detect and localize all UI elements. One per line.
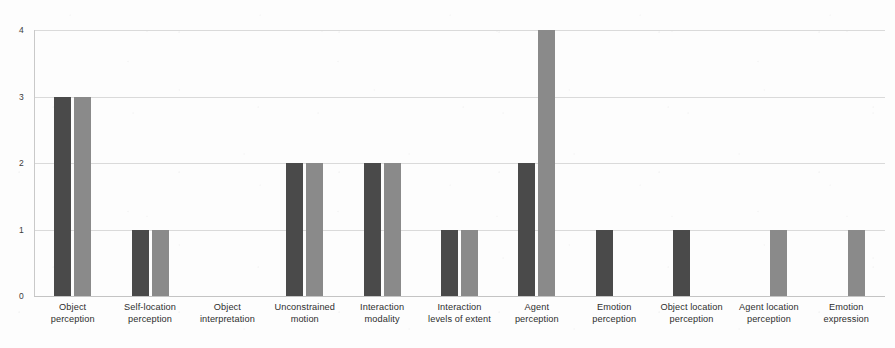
bar-pair (441, 30, 478, 296)
bar-group (653, 30, 730, 296)
bar-group (498, 30, 575, 296)
x-axis-label-line: Interaction (422, 302, 497, 314)
bar-series-1 (132, 230, 149, 297)
x-axis-label-line: expression (809, 314, 884, 326)
plot-area (34, 30, 885, 296)
x-axis-label-line: interpretation (190, 314, 265, 326)
y-axis: 01234 (0, 0, 34, 348)
x-axis-label-line: Emotion (809, 302, 884, 314)
bar-pair (518, 30, 555, 296)
bar-pair (750, 30, 787, 296)
x-axis-label-line: perception (577, 314, 652, 326)
y-axis-tick-label: 1 (19, 225, 24, 235)
bar-series-1 (596, 230, 613, 297)
bar-pair (596, 30, 633, 296)
bar-series-1 (286, 163, 303, 296)
x-axis-label-line: Self-location (112, 302, 187, 314)
x-axis-category-label: Agentperception (498, 302, 575, 325)
bar-pair (132, 30, 169, 296)
y-axis-tick-label: 4 (19, 25, 24, 35)
x-axis-label-line: Agent location (731, 302, 806, 314)
x-axis-category-label: Emotionperception (576, 302, 653, 325)
bar-pair (828, 30, 865, 296)
x-axis-label-line: Agent (499, 302, 574, 314)
bar-group (189, 30, 266, 296)
bar-series-2 (461, 230, 478, 297)
bar-pair (364, 30, 401, 296)
x-axis-label-line: perception (35, 314, 110, 326)
bar-series-2 (74, 97, 91, 297)
bar-pair (286, 30, 323, 296)
bar-group (730, 30, 807, 296)
x-axis-label-line: levels of extent (422, 314, 497, 326)
bar-group (421, 30, 498, 296)
y-axis-tick-label: 0 (19, 291, 24, 301)
y-axis-tick-label: 3 (19, 92, 24, 102)
x-axis-label-line: Emotion (577, 302, 652, 314)
x-axis-label-line: modality (344, 314, 419, 326)
x-axis-category-label: Objectinterpretation (189, 302, 266, 325)
x-axis: ObjectperceptionSelf-locationperceptionO… (34, 302, 885, 325)
bar-group (266, 30, 343, 296)
x-axis-label-line: perception (654, 314, 729, 326)
bar-group (34, 30, 111, 296)
bar-series-1 (441, 230, 458, 297)
x-axis-label-line: Interaction (344, 302, 419, 314)
bar-series-2 (848, 230, 865, 297)
x-axis-category-label: Unconstrainedmotion (266, 302, 343, 325)
bar-pair (54, 30, 91, 296)
x-axis-label-line: perception (499, 314, 574, 326)
x-axis-label-line: motion (267, 314, 342, 326)
bar-series-1 (518, 163, 535, 296)
chart-page: 01234 ObjectperceptionSelf-locationperce… (0, 0, 895, 348)
x-axis-label-line: Object (190, 302, 265, 314)
grouped-bar-chart: 01234 ObjectperceptionSelf-locationperce… (0, 0, 895, 348)
x-axis-category-label: Object locationperception (653, 302, 730, 325)
bar-pair (673, 30, 710, 296)
x-axis-category-label: Self-locationperception (111, 302, 188, 325)
x-axis-label-line: Object (35, 302, 110, 314)
bar-group (808, 30, 885, 296)
x-axis-label-line: Object location (654, 302, 729, 314)
bar-group (111, 30, 188, 296)
axis-baseline (34, 296, 885, 297)
x-axis-label-line: perception (112, 314, 187, 326)
bar-series-1 (673, 230, 690, 297)
bar-series-2 (306, 163, 323, 296)
bar-series-1 (54, 97, 71, 297)
bar-pair (209, 30, 246, 296)
bar-group (343, 30, 420, 296)
x-axis-label-line: perception (731, 314, 806, 326)
bar-series-2 (152, 230, 169, 297)
bar-series-2 (770, 230, 787, 297)
x-axis-category-label: Objectperception (34, 302, 111, 325)
x-axis-label-line: Unconstrained (267, 302, 342, 314)
bar-series-2 (538, 30, 555, 296)
bar-series-2 (384, 163, 401, 296)
bar-series-1 (364, 163, 381, 296)
x-axis-category-label: Agent locationperception (730, 302, 807, 325)
x-axis-category-label: Emotionexpression (808, 302, 885, 325)
bar-group (576, 30, 653, 296)
x-axis-category-label: Interactionlevels of extent (421, 302, 498, 325)
y-axis-tick-label: 2 (19, 158, 24, 168)
x-axis-category-label: Interactionmodality (343, 302, 420, 325)
